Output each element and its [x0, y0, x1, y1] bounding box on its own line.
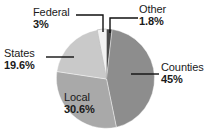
pie-label-states-value: 19.6%	[4, 60, 35, 72]
pie-label-states: States 19.6%	[4, 48, 35, 71]
pie-label-federal: Federal 3%	[33, 7, 70, 30]
pie-slice-counties	[107, 29, 155, 127]
pie-label-local-name: Local	[64, 92, 95, 104]
pie-label-counties-value: 45%	[161, 74, 204, 86]
pie-label-states-name: States	[4, 48, 35, 60]
pie-label-other-name: Other	[139, 4, 166, 16]
pie-chart: Federal 3% Other 1.8% States 19.6% Count…	[0, 0, 213, 135]
pie-label-other-value: 1.8%	[139, 16, 166, 28]
pie-label-counties-name: Counties	[161, 62, 204, 74]
pie-label-federal-value: 3%	[33, 19, 70, 31]
pie-label-federal-name: Federal	[33, 7, 70, 19]
pie-label-counties: Counties 45%	[161, 62, 204, 85]
pie-label-local: Local 30.6%	[64, 92, 95, 115]
pie-label-other: Other 1.8%	[139, 4, 166, 27]
pie-label-local-value: 30.6%	[64, 104, 95, 116]
